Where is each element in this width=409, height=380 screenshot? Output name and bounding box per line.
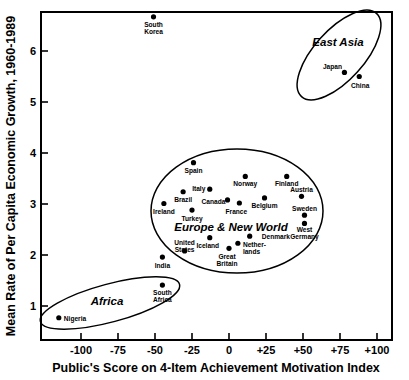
data-point: Japan xyxy=(323,63,347,75)
point-marker xyxy=(225,197,230,202)
x-tick-label: +50 xyxy=(294,344,313,356)
point-marker xyxy=(160,254,165,259)
data-point: Belgium xyxy=(252,195,278,210)
y-axis-ticks: 123456 xyxy=(30,45,48,312)
data-point: Iceland xyxy=(196,235,219,249)
data-point: WestGermany xyxy=(290,221,319,242)
point-label: Spain xyxy=(185,167,203,175)
scatter-chart-figure: -100-75-50-250+25+50+75+100 123456 East … xyxy=(0,0,409,380)
cluster-label: Africa xyxy=(90,295,124,307)
point-label: Denmark xyxy=(262,233,291,240)
point-marker xyxy=(207,235,212,240)
point-marker xyxy=(302,221,307,226)
point-marker xyxy=(302,213,307,218)
point-marker xyxy=(160,282,165,287)
data-point: Spain xyxy=(185,160,203,175)
point-label: Ireland xyxy=(153,208,175,215)
point-marker xyxy=(237,200,242,205)
data-point: Denmark xyxy=(247,233,290,240)
data-point: SouthKorea xyxy=(144,14,163,35)
point-marker xyxy=(342,70,347,75)
data-point: India xyxy=(155,254,171,269)
y-tick-label: 2 xyxy=(30,249,36,261)
point-label: West xyxy=(297,226,313,233)
data-point: Canada xyxy=(202,197,231,205)
y-tick-label: 6 xyxy=(30,45,36,57)
cluster-ellipses: East AsiaEurope & New WorldAfrica xyxy=(36,0,396,340)
data-point: Turkey xyxy=(181,208,202,224)
point-marker xyxy=(191,160,196,165)
point-marker xyxy=(226,246,231,251)
point-marker xyxy=(189,208,194,213)
data-point: France xyxy=(226,200,248,215)
data-point: UnitedStates xyxy=(174,239,195,254)
point-marker xyxy=(161,201,166,206)
y-tick-label: 1 xyxy=(30,300,36,312)
data-point: Nether-lands xyxy=(235,241,266,256)
x-tick-label: 0 xyxy=(226,344,232,356)
point-marker xyxy=(262,195,267,200)
point-marker xyxy=(299,194,304,199)
point-marker xyxy=(247,234,252,239)
x-tick-label: +100 xyxy=(365,344,390,356)
point-label: Japan xyxy=(323,63,342,71)
point-label: Austria xyxy=(290,186,313,193)
cluster-ellipse xyxy=(283,0,395,113)
data-point: GreatBritain xyxy=(217,246,238,268)
point-label: Iceland xyxy=(196,242,219,249)
point-label: France xyxy=(226,208,248,215)
point-label: Belgium xyxy=(252,202,278,210)
data-point: Nigeria xyxy=(56,315,86,323)
point-marker xyxy=(56,315,61,320)
data-point: Ireland xyxy=(153,201,175,216)
x-tick-label: -100 xyxy=(70,344,92,356)
data-point: Norway xyxy=(233,174,257,189)
point-label: Germany xyxy=(290,233,319,241)
point-marker xyxy=(151,14,156,19)
point-label: United xyxy=(174,239,195,246)
point-label: India xyxy=(155,262,171,269)
point-label: Sweden xyxy=(292,205,317,212)
x-tick-label: +75 xyxy=(331,344,350,356)
chart-canvas: -100-75-50-250+25+50+75+100 123456 East … xyxy=(0,0,409,380)
data-point: SouthAfrica xyxy=(153,282,172,303)
x-tick-label: -75 xyxy=(110,344,126,356)
point-marker xyxy=(235,241,240,246)
data-point: Brazil xyxy=(174,189,192,203)
point-label: South xyxy=(153,289,172,296)
data-points: SouthKoreaJapanChinaSpainNorwayFinlandIt… xyxy=(56,14,370,323)
point-marker xyxy=(181,189,186,194)
point-label: Great xyxy=(218,253,236,260)
point-label: States xyxy=(175,246,195,253)
point-label: Norway xyxy=(233,180,257,188)
point-label: Korea xyxy=(144,28,163,35)
point-label: Africa xyxy=(153,296,172,303)
point-label: lands xyxy=(243,248,261,255)
point-marker xyxy=(357,74,362,79)
cluster-label: Europe & New World xyxy=(174,221,288,233)
x-tick-label: -50 xyxy=(147,344,163,356)
point-label: Britain xyxy=(217,260,238,267)
y-tick-label: 3 xyxy=(30,198,36,210)
x-tick-label: -25 xyxy=(184,344,200,356)
plot-frame xyxy=(41,12,392,340)
data-point: Austria xyxy=(290,186,313,199)
point-label: South xyxy=(144,21,163,28)
x-axis-ticks: -100-75-50-250+25+50+75+100 xyxy=(70,333,389,356)
point-label: Canada xyxy=(202,198,226,205)
data-point: Italy xyxy=(192,185,212,193)
data-point: Sweden xyxy=(292,205,317,218)
x-axis-title: Public's Score on 4-Item Achievement Mot… xyxy=(52,361,380,375)
point-marker xyxy=(284,174,289,179)
x-tick-label: +25 xyxy=(257,344,276,356)
point-label: Italy xyxy=(192,185,206,193)
y-tick-label: 5 xyxy=(30,96,36,108)
point-marker xyxy=(243,174,248,179)
point-label: Brazil xyxy=(174,196,192,203)
point-label: Nether- xyxy=(243,241,266,248)
point-label: China xyxy=(351,82,370,89)
point-label: Nigeria xyxy=(64,315,87,323)
cluster-label: East Asia xyxy=(312,36,364,48)
point-label: Turkey xyxy=(181,215,202,223)
point-marker xyxy=(207,187,212,192)
